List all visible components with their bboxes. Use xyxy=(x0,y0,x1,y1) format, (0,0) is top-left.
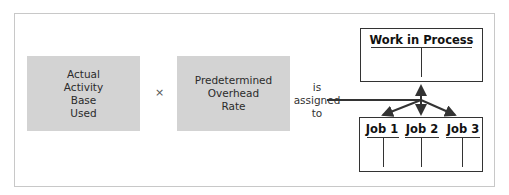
assignment-arrows-icon xyxy=(0,0,509,195)
